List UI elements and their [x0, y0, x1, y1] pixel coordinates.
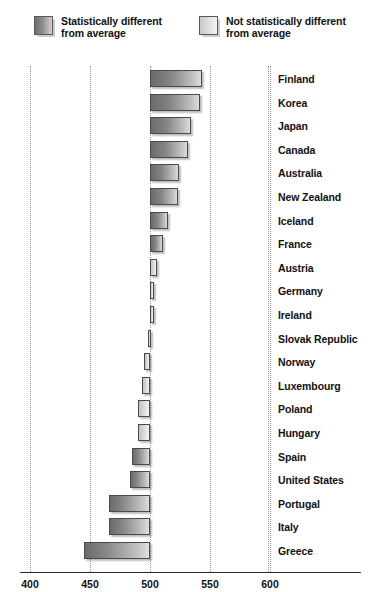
tick-label-500: 500: [141, 578, 159, 590]
category-label-united-states: United States: [278, 474, 344, 486]
category-label-france: France: [278, 238, 312, 250]
chart-row: Hungary: [0, 424, 375, 448]
category-label-austria: Austria: [278, 262, 313, 274]
chart-row: Australia: [0, 164, 375, 188]
chart-row: France: [0, 235, 375, 259]
legend-swatch-not-significant-icon: [199, 16, 218, 35]
legend-swatch-significant-icon: [34, 16, 53, 35]
category-label-iceland: Iceland: [278, 215, 313, 227]
bar-iceland: [150, 212, 168, 229]
x-axis-line: [20, 572, 361, 573]
chart-row: Poland: [0, 400, 375, 424]
chart-row: Austria: [0, 259, 375, 283]
category-label-greece: Greece: [278, 545, 313, 557]
chart-row: Iceland: [0, 212, 375, 236]
tick-label-600: 600: [261, 578, 279, 590]
tick-label-550: 550: [201, 578, 219, 590]
chart-row: Canada: [0, 141, 375, 165]
category-label-ireland: Ireland: [278, 309, 312, 321]
category-label-canada: Canada: [278, 144, 315, 156]
legend-label-not-significant: Not statistically different from average: [226, 16, 346, 39]
chart-row: Italy: [0, 518, 375, 542]
bar-luxembourg: [142, 377, 150, 394]
bar-portugal: [109, 495, 150, 512]
chart-legend: Statistically different from average Not…: [0, 0, 375, 58]
category-label-portugal: Portugal: [278, 498, 320, 510]
bar-slovak-republic: [148, 330, 152, 347]
tick-label-450: 450: [81, 578, 99, 590]
category-label-germany: Germany: [278, 285, 323, 297]
bar-australia: [150, 164, 179, 181]
bar-korea: [150, 94, 200, 111]
chart-row: Finland: [0, 70, 375, 94]
category-label-luxembourg: Luxembourg: [278, 380, 341, 392]
category-label-norway: Norway: [278, 356, 315, 368]
bar-poland: [138, 400, 150, 417]
tick-label-400: 400: [21, 578, 39, 590]
chart-row: Greece: [0, 542, 375, 566]
chart-row: Ireland: [0, 306, 375, 330]
category-label-japan: Japan: [278, 120, 308, 132]
chart-row: Slovak Republic: [0, 330, 375, 354]
category-label-new-zealand: New Zealand: [278, 191, 341, 203]
bar-united-states: [130, 471, 150, 488]
category-label-spain: Spain: [278, 451, 306, 463]
bar-canada: [150, 141, 188, 158]
bar-japan: [150, 117, 191, 134]
bar-spain: [132, 448, 150, 465]
bar-norway: [144, 353, 150, 370]
chart-row: Spain: [0, 448, 375, 472]
category-label-slovak-republic: Slovak Republic: [278, 333, 358, 345]
legend-label-significant: Statistically different from average: [61, 16, 162, 39]
chart-row: Portugal: [0, 495, 375, 519]
x-axis-tick-labels: 400450500550600: [0, 578, 375, 592]
chart-row: Luxembourg: [0, 377, 375, 401]
chart-row: New Zealand: [0, 188, 375, 212]
bar-germany: [150, 282, 154, 299]
category-label-hungary: Hungary: [278, 427, 320, 439]
category-label-korea: Korea: [278, 97, 307, 109]
legend-item-statistically-different: Statistically different from average: [34, 16, 162, 39]
chart-row: Germany: [0, 282, 375, 306]
category-label-finland: Finland: [278, 73, 315, 85]
category-label-poland: Poland: [278, 403, 312, 415]
chart-row: United States: [0, 471, 375, 495]
chart-row: Korea: [0, 94, 375, 118]
legend-item-not-statistically-different: Not statistically different from average: [199, 16, 346, 39]
chart-plot-area: FinlandKoreaJapanCanadaAustraliaNew Zeal…: [0, 66, 375, 550]
bar-new-zealand: [150, 188, 178, 205]
bar-italy: [109, 518, 150, 535]
bar-france: [150, 235, 163, 252]
category-label-italy: Italy: [278, 521, 299, 533]
bar-ireland: [150, 306, 154, 323]
chart-row: Japan: [0, 117, 375, 141]
bar-greece: [84, 542, 150, 559]
category-label-australia: Australia: [278, 167, 322, 179]
bar-austria: [150, 259, 157, 276]
bar-hungary: [138, 424, 150, 441]
chart-row: Norway: [0, 353, 375, 377]
bar-finland: [150, 70, 202, 87]
